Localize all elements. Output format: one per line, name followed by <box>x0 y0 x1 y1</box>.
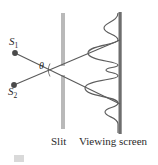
slit-label: Slit <box>51 136 66 147</box>
page-artifact <box>14 155 24 162</box>
interference-figure: S1 S2 θ Slit Viewing screen <box>0 0 158 165</box>
viewing-screen-label: Viewing screen <box>79 136 147 147</box>
source-1-label: S1 <box>9 36 18 50</box>
source-2-label: S2 <box>8 86 17 100</box>
intensity-curve <box>85 13 118 133</box>
viewing-screen-bar <box>119 12 122 134</box>
slit-barrier-lower <box>61 75 65 129</box>
source-dot-1 <box>12 50 18 56</box>
slit-barrier-upper <box>61 13 65 66</box>
angle-theta-label: θ <box>39 61 44 71</box>
